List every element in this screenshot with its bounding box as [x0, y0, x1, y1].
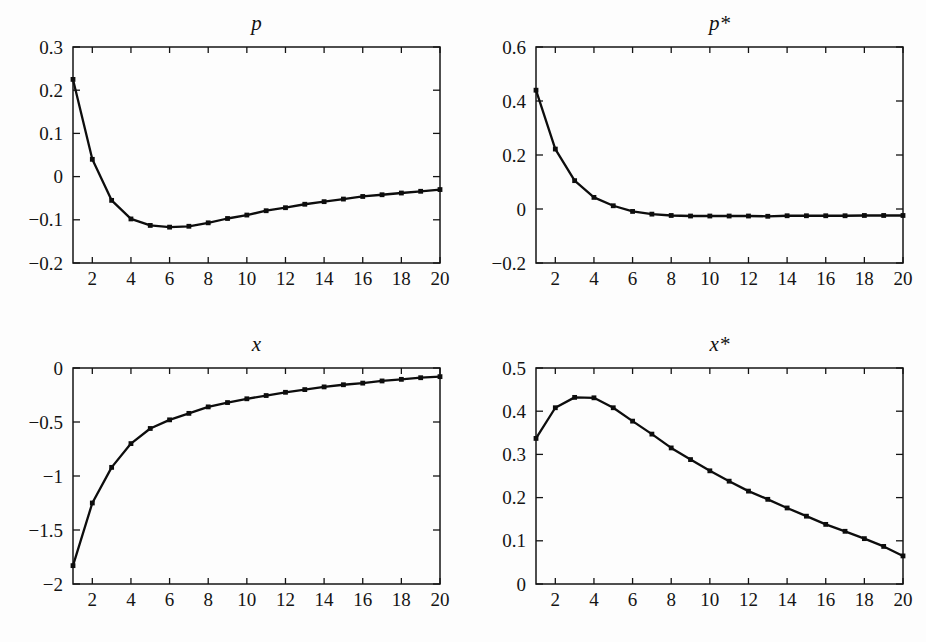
x-tick-label: 4: [126, 268, 136, 289]
data-series-line: [73, 377, 440, 566]
data-point-marker: [418, 375, 423, 380]
data-point-marker: [360, 381, 365, 386]
x-tick-label: 14: [778, 268, 798, 289]
y-tick-label: −0.2: [29, 253, 63, 274]
x-tick-label: 2: [88, 268, 98, 289]
x-tick-label: 12: [739, 589, 758, 610]
y-tick-label: −1.5: [29, 520, 63, 541]
data-point-marker: [804, 213, 809, 218]
x-tick-label: 20: [894, 268, 913, 289]
data-point-marker: [746, 214, 751, 219]
data-point-marker: [592, 395, 597, 400]
x-tick-label: 4: [589, 268, 599, 289]
x-tick-label: 4: [126, 589, 136, 610]
data-point-marker: [322, 199, 327, 204]
data-point-marker: [129, 217, 134, 222]
chart-x: x2468101214161820−2−1.5−1−0.50: [0, 321, 463, 642]
data-point-marker: [186, 411, 191, 416]
y-tick-label: −2: [43, 574, 63, 595]
data-series-line: [73, 79, 440, 227]
data-point-marker: [688, 457, 693, 462]
data-point-marker: [649, 212, 654, 217]
x-tick-label: 12: [276, 268, 295, 289]
x-tick-label: 6: [165, 589, 175, 610]
data-point-marker: [611, 405, 616, 410]
data-point-marker: [572, 178, 577, 183]
data-point-marker: [206, 220, 211, 225]
y-tick-label: −1: [43, 466, 63, 487]
data-point-marker: [302, 387, 307, 392]
y-tick-label: 0.2: [502, 487, 526, 508]
data-point-marker: [341, 197, 346, 202]
x-tick-label: 2: [551, 589, 561, 610]
panel-p-star: p*2468101214161820−0.200.20.40.6: [463, 0, 926, 321]
y-tick-label: 0.6: [502, 37, 526, 58]
data-point-marker: [862, 213, 867, 218]
data-point-marker: [225, 216, 230, 221]
data-point-marker: [553, 147, 558, 152]
x-tick-label: 6: [165, 268, 175, 289]
x-tick-label: 10: [700, 589, 719, 610]
x-tick-label: 20: [894, 589, 913, 610]
y-tick-label: 0.2: [502, 145, 526, 166]
data-point-marker: [843, 213, 848, 218]
x-tick-label: 18: [855, 268, 874, 289]
data-point-marker: [901, 554, 906, 559]
data-point-marker: [785, 506, 790, 511]
data-point-marker: [707, 214, 712, 219]
data-point-marker: [746, 489, 751, 494]
data-point-marker: [302, 202, 307, 207]
data-point-marker: [727, 214, 732, 219]
x-tick-label: 18: [855, 589, 874, 610]
data-point-marker: [90, 157, 95, 162]
data-point-marker: [765, 214, 770, 219]
x-tick-label: 14: [778, 589, 798, 610]
data-series-line: [536, 397, 903, 556]
x-tick-label: 16: [353, 268, 372, 289]
y-tick-label: 0: [54, 166, 64, 187]
data-point-marker: [881, 544, 886, 549]
data-point-marker: [862, 536, 867, 541]
chart-title: p: [249, 11, 262, 35]
data-point-marker: [225, 400, 230, 405]
y-tick-label: 0.4: [502, 401, 526, 422]
plot-frame: [73, 47, 440, 263]
y-tick-label: −0.2: [492, 253, 526, 274]
y-tick-label: 0: [517, 199, 527, 220]
data-point-marker: [380, 379, 385, 384]
data-point-marker: [148, 426, 153, 431]
plot-frame: [73, 368, 440, 584]
x-tick-label: 20: [431, 268, 450, 289]
y-tick-label: 0: [517, 574, 527, 595]
data-point-marker: [843, 529, 848, 534]
data-point-marker: [360, 194, 365, 199]
y-tick-label: −0.5: [29, 412, 63, 433]
x-tick-label: 8: [203, 589, 213, 610]
data-point-marker: [341, 382, 346, 387]
x-tick-label: 14: [315, 268, 335, 289]
y-tick-label: 0.5: [502, 358, 526, 379]
x-tick-label: 8: [666, 268, 676, 289]
data-point-marker: [244, 213, 249, 218]
data-point-marker: [553, 405, 558, 410]
data-point-marker: [669, 213, 674, 218]
data-point-marker: [244, 396, 249, 401]
data-point-marker: [727, 479, 732, 484]
data-point-marker: [630, 209, 635, 214]
data-point-marker: [399, 191, 404, 196]
data-point-marker: [90, 501, 95, 506]
data-point-marker: [438, 374, 443, 379]
x-tick-label: 6: [628, 589, 638, 610]
y-tick-label: −0.1: [29, 209, 63, 230]
y-tick-label: 0.1: [39, 123, 63, 144]
four-panel-figure: p2468101214161820−0.2−0.100.10.20.3 p*24…: [0, 0, 926, 642]
data-point-marker: [881, 213, 886, 218]
x-tick-label: 16: [816, 268, 835, 289]
x-tick-label: 14: [315, 589, 335, 610]
data-point-marker: [283, 205, 288, 210]
x-tick-label: 8: [203, 268, 213, 289]
data-point-marker: [186, 224, 191, 229]
data-point-marker: [418, 189, 423, 194]
data-point-marker: [148, 223, 153, 228]
data-point-marker: [71, 563, 76, 568]
